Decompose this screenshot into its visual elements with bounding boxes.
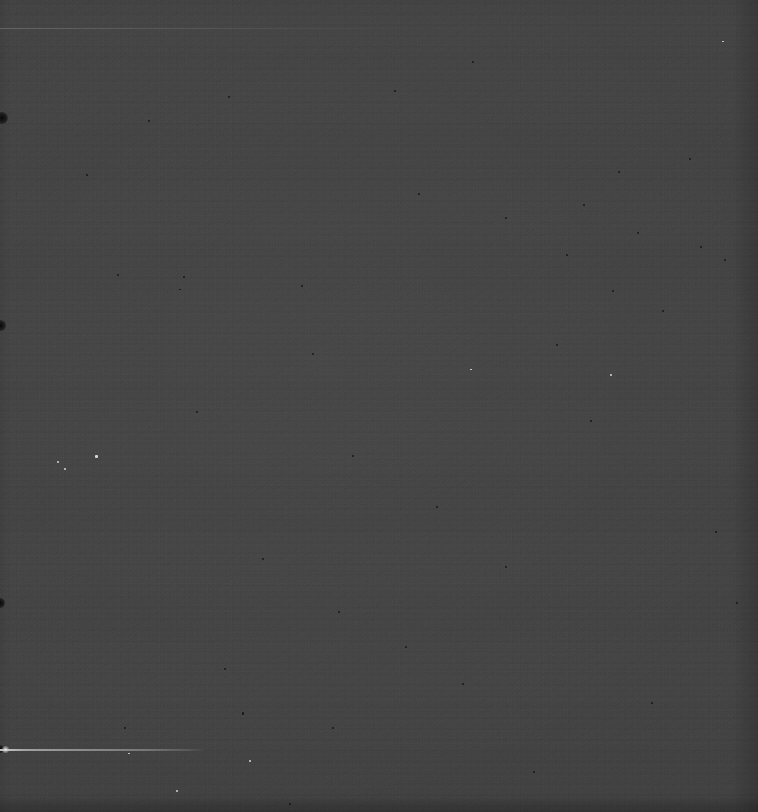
bright-linear-trail [0, 749, 206, 751]
hot-pixel-4 [128, 753, 130, 754]
fine-read-noise-layer [0, 0, 758, 812]
dark-pixel-5 [332, 727, 334, 729]
dark-pixel-33 [289, 803, 291, 805]
dark-pixel-38 [312, 353, 314, 355]
hot-pixel-0 [95, 455, 98, 458]
dark-pixel-8 [583, 204, 585, 206]
dark-pixel-9 [637, 232, 639, 234]
hot-pixel-5 [610, 374, 612, 376]
dark-pixel-24 [462, 683, 464, 685]
dark-pixel-30 [715, 531, 717, 533]
detector-frame-canvas [0, 0, 758, 812]
hot-pixel-6 [176, 790, 178, 792]
dark-pixel-31 [736, 602, 738, 604]
dark-pixel-18 [590, 420, 592, 422]
trail-head-knot [2, 746, 9, 753]
bottom-overscan-strip [0, 796, 758, 812]
dark-pixel-1 [183, 276, 185, 278]
dark-pixel-10 [700, 246, 702, 248]
dark-pixel-39 [196, 411, 198, 413]
dark-pixel-21 [338, 611, 340, 613]
dark-pixel-14 [566, 254, 568, 256]
dark-pixel-13 [612, 290, 614, 292]
dark-pixel-22 [405, 646, 407, 648]
dark-pixel-12 [724, 259, 726, 261]
dark-pixel-32 [651, 702, 653, 704]
coarse-grain-noise-layer [0, 0, 758, 812]
dark-pixel-7 [505, 217, 507, 219]
dark-pixel-29 [436, 506, 438, 508]
right-overscan-strip [732, 0, 758, 812]
dark-pixel-23 [224, 668, 226, 670]
dark-pixel-4 [242, 712, 244, 715]
hot-pixel-1 [64, 468, 66, 470]
dark-pixel-3 [301, 285, 303, 287]
faint-upper-line [0, 28, 430, 29]
dark-pixel-15 [618, 171, 620, 173]
dark-pixel-17 [556, 344, 558, 346]
edge-blob-mid [0, 320, 6, 331]
edge-blob-lower [0, 598, 5, 608]
left-edge-shading [0, 0, 10, 812]
dark-pixel-16 [689, 158, 691, 160]
hot-pixel-7 [470, 369, 472, 370]
broad-row-structure-layer [0, 0, 758, 812]
dark-pixel-6 [418, 193, 420, 195]
edge-blob-bottom [0, 745, 4, 753]
dark-pixel-28 [352, 455, 354, 457]
dark-pixel-0 [117, 274, 119, 276]
dark-pixel-11 [662, 310, 664, 312]
dark-pixel-2 [179, 289, 181, 290]
dark-pixel-defects [0, 0, 758, 812]
dark-pixel-35 [124, 727, 126, 729]
hot-pixel-3 [249, 760, 251, 762]
hot-pixel-defects [0, 0, 758, 812]
dark-pixel-26 [228, 96, 230, 98]
dark-pixel-20 [262, 558, 264, 560]
hot-pixel-8 [722, 41, 724, 42]
edge-dark-blobs [0, 0, 758, 812]
dark-pixel-37 [472, 61, 474, 63]
hot-pixel-2 [57, 461, 59, 463]
dark-pixel-34 [533, 771, 535, 773]
dark-pixel-27 [86, 174, 88, 176]
flat-field-falloff-layer [0, 0, 758, 812]
dark-pixel-19 [505, 566, 507, 568]
dark-pixel-25 [148, 120, 150, 122]
dark-pixel-36 [394, 90, 396, 92]
edge-blob-upper [0, 112, 8, 124]
row-readout-banding-layer [0, 0, 758, 812]
